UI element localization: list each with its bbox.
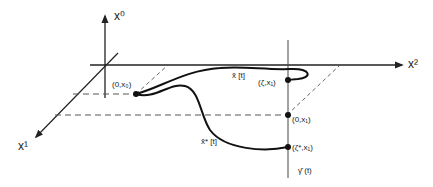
point-origin-label: (0,x₀)	[112, 81, 131, 89]
point-lower-end-label: (ζ*,x₁)	[292, 144, 313, 152]
x1-axis	[36, 53, 118, 137]
lower-curve-label: x̂* [t]	[201, 138, 217, 146]
diagram-canvas	[0, 0, 433, 187]
x2-axis-label: x²	[408, 58, 418, 70]
point-origin	[133, 91, 139, 97]
point-base	[285, 112, 291, 118]
upper-curve-label: x̂ [t]	[232, 72, 245, 80]
point-base-label: (0,x₁)	[292, 116, 311, 124]
point-upper-end	[285, 77, 291, 83]
dashed-x1-diag	[287, 65, 340, 115]
point-upper-end-label: (ζ,x₁)	[258, 79, 276, 87]
x0-axis-label: x⁰	[114, 10, 125, 22]
x1-axis-label: x¹	[18, 140, 28, 152]
point-lower-end	[285, 144, 291, 150]
gamma-label: γ̂ (t)	[298, 167, 312, 175]
